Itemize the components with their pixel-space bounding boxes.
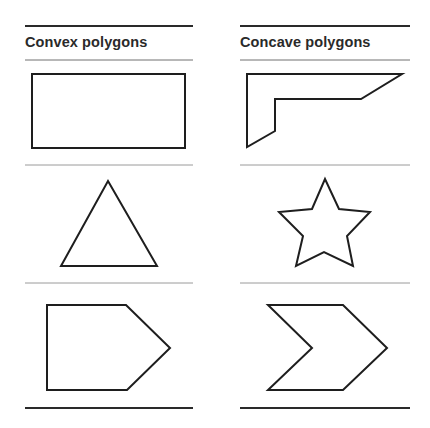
concave-star [279,179,370,266]
convex-polygons-header: Convex polygons [25,34,147,50]
concave-chevron [268,305,387,390]
convex-triangle [61,181,157,266]
convex-pentagon [47,305,170,390]
polygon-diagram [0,0,430,428]
concave-polygons-header: Concave polygons [240,34,371,50]
concave-l-shape [247,74,402,147]
convex-rectangle [32,74,185,148]
